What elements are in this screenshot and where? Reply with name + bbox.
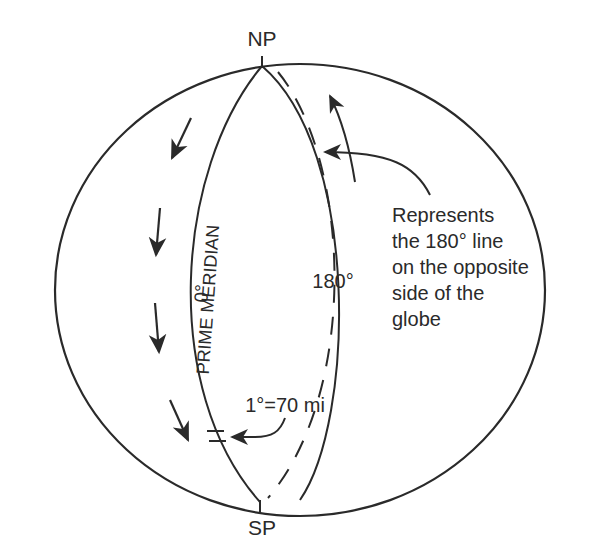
line-180-label: 180° <box>312 270 353 292</box>
globe-diagram: NP SP 0° PRIME MERIDIAN 180° 1°=70 mi Re… <box>0 0 608 553</box>
down-arrow-icon-4 <box>170 400 188 440</box>
callout-line-2: the 180° line <box>392 230 503 252</box>
callout-line-1: Represents <box>392 204 494 226</box>
down-arrow-icon-1 <box>172 118 191 158</box>
callout-line-3: on the opposite <box>392 256 529 278</box>
north-pole-label: NP <box>247 27 276 50</box>
south-pole-label: SP <box>248 516 276 539</box>
callout-line-4: side of the <box>392 282 484 304</box>
callout-arrow-icon <box>325 152 430 195</box>
down-arrow-icon-3 <box>155 303 159 352</box>
up-arrow-icon <box>330 96 355 182</box>
callout-line-5: globe <box>392 308 441 330</box>
scale-arrow-icon <box>232 418 285 437</box>
callout-text: Represents the 180° line on the opposite… <box>392 204 529 330</box>
scale-label: 1°=70 mi <box>245 394 325 416</box>
prime-meridian-name-label: PRIME MERIDIAN <box>193 224 223 375</box>
down-arrow-icon-2 <box>156 208 160 255</box>
